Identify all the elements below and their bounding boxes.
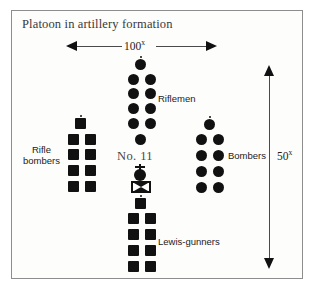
bowtie-glyph — [134, 183, 148, 191]
commander-flag-icon — [134, 164, 146, 181]
lewis-gunners-lead-dot-icon — [140, 195, 142, 197]
group-lewis-gunners: Lewis-gunners — [0, 0, 315, 291]
lewis-gunners-marker — [145, 229, 156, 240]
lewis-gunners-marker — [145, 213, 156, 224]
lewis-gunners-marker — [128, 229, 139, 240]
group-label-lewis-gunners: Lewis-gunners — [158, 236, 220, 247]
lewis-gunners-marker — [145, 245, 156, 256]
platoon-formation-figure: Platoon in artillery formation 100x 50x … — [0, 0, 315, 291]
lewis-gunners-marker — [128, 213, 139, 224]
commander-crossbar — [135, 166, 145, 168]
hq-bowtie-icon — [131, 181, 151, 193]
platoon-number-label: No. 11 — [117, 149, 153, 164]
lewis-gunners-marker — [145, 261, 156, 272]
lewis-gunners-marker — [135, 198, 146, 209]
lewis-gunners-marker — [128, 261, 139, 272]
lewis-gunners-marker — [128, 245, 139, 256]
commander-body — [134, 169, 146, 181]
